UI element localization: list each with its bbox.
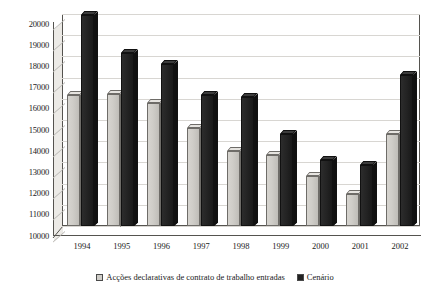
bar-side-face [333,157,337,226]
bar-side-face [373,161,377,226]
y-axis-tick-label: 11000 [5,209,49,219]
x-axis-tick-labels: 199419951996199719981999200020012002 [62,241,420,257]
bar-front-face [187,128,200,226]
bar-front-face [360,165,373,226]
bar [346,194,359,226]
x-axis-tick-label: 1996 [142,241,182,251]
bar-group [107,14,134,226]
bar [306,176,319,226]
bar [280,134,293,226]
legend-swatch-icon-series-1 [96,274,103,281]
bar [227,151,240,226]
x-axis-tick-label: 2002 [380,241,420,251]
bar-group [346,14,373,226]
bar-side-face [293,130,297,226]
bar [386,134,399,226]
y-axis-tick-label: 13000 [5,167,49,177]
bar-front-face [320,160,333,226]
bar-front-face [280,134,293,226]
bar-front-face [201,95,214,226]
bar [161,64,174,226]
bar-side-face [134,50,138,226]
y-axis-tick-label: 10000 [5,231,49,241]
x-axis-tick-label: 2000 [301,241,341,251]
bar-front-face [306,176,319,226]
bar-front-face [81,15,94,226]
bar-front-face [266,155,279,226]
y-axis-tick-label: 15000 [5,125,49,135]
x-axis-tick-label: 1997 [181,241,221,251]
y-axis-tick-label: 14000 [5,146,49,156]
bar-front-face [161,64,174,226]
bar [187,128,200,226]
bar-side-face [174,60,178,226]
y-axis-tick-label: 20000 [5,19,49,29]
legend-item-series-2: Cenário [297,272,334,282]
x-axis-tick-label: 1998 [221,241,261,251]
bar [360,165,373,226]
bar-front-face [386,134,399,226]
bar [67,95,80,226]
bar [107,94,120,227]
bar-group [306,14,333,226]
bar [266,155,279,226]
y-axis-tick-label: 19000 [5,40,49,50]
bar-front-face [227,151,240,226]
y-axis-tick-label: 12000 [5,188,49,198]
bar-series-container [62,14,420,226]
bar [201,95,214,226]
bar-group [266,14,293,226]
x-axis-tick-label: 2001 [340,241,380,251]
bar-front-face [121,53,134,226]
bar-group [147,14,174,226]
bar-front-face [346,194,359,226]
bar-group [187,14,214,226]
bar-group [67,14,94,226]
bar-side-face [254,93,258,226]
y-axis-tick-label: 17000 [5,82,49,92]
bar-front-face [400,75,413,226]
bar-front-face [147,103,160,226]
bar [320,160,333,226]
bar-side-face [413,72,417,226]
x-axis-tick-label: 1994 [62,241,102,251]
bar [400,75,413,226]
bar-front-face [67,95,80,226]
chart-legend: Acções declarativas de contrato de traba… [0,272,430,282]
bar-chart: 1000011000120001300014000150001600017000… [0,0,430,290]
bar-side-face [214,91,218,226]
y-axis-tick-label: 16000 [5,103,49,113]
bar-group [227,14,254,226]
legend-swatch-icon-series-2 [297,274,304,281]
bar [81,15,94,226]
bar-front-face [241,97,254,226]
bar [147,103,160,226]
legend-item-series-1: Acções declarativas de contrato de traba… [96,272,284,282]
bar-group [386,14,413,226]
y-axis-tick-label: 18000 [5,61,49,71]
x-axis-tick-label: 1995 [102,241,142,251]
bar [241,97,254,226]
legend-label-series-1: Acções declarativas de contrato de traba… [106,272,284,282]
legend-label-series-2: Cenário [307,272,334,282]
bar-front-face [107,94,120,227]
bar-side-face [94,12,98,226]
x-axis-tick-label: 1999 [261,241,301,251]
bar [121,53,134,226]
